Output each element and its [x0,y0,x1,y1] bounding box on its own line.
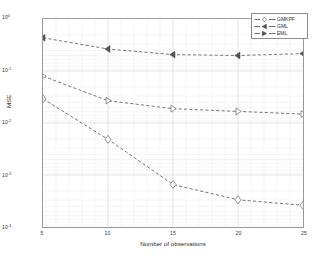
series-gmkpf-markers [42,95,304,210]
plot-area [42,18,304,228]
y-axis-title: MSE [6,95,12,108]
y-tick-label-1e0: 100 [2,15,40,20]
y-axis-tick-labels: 100 10-1 10-2 10-3 10-4 [0,0,40,260]
legend-swatch-gmkpf [254,16,276,23]
legend[interactable]: GMKPF GML EML [251,13,308,39]
series-eml-markers [42,73,304,118]
triangle-right-marker-icon [262,31,266,36]
legend-item-gmkpf[interactable]: GMKPF [254,16,305,23]
legend-label-gml: GML [277,24,288,29]
x-axis-title: Number of observations [42,241,304,247]
diamond-marker-icon [262,17,266,22]
y-tick-label-1e-3: 10-3 [2,173,40,178]
x-tick-label-15: 15 [170,231,176,236]
legend-item-gml[interactable]: GML [254,23,305,30]
x-tick-label-25: 25 [301,231,307,236]
legend-label-gmkpf: GMKPF [277,17,295,22]
x-tick-label-10: 10 [105,231,111,236]
legend-item-eml[interactable]: EML [254,30,305,37]
series-eml [42,73,304,118]
series-gmkpf-line [43,99,303,206]
legend-label-eml: EML [277,31,287,36]
y-tick-label-1e-4: 10-4 [2,225,40,230]
x-tick-label-20: 20 [236,231,242,236]
legend-swatch-eml [254,30,276,37]
series-gmkpf [42,95,304,210]
figure-canvas: 100 10-1 10-2 10-3 10-4 5 10 15 20 25 Nu… [0,0,319,260]
y-tick-label-1e-2: 10-2 [2,120,40,125]
data-series-layer [43,19,303,227]
x-tick-label-5: 5 [41,231,44,236]
y-tick-label-1e-1: 10-1 [2,68,40,73]
triangle-left-marker-icon [262,24,266,29]
legend-swatch-gml [254,23,276,30]
